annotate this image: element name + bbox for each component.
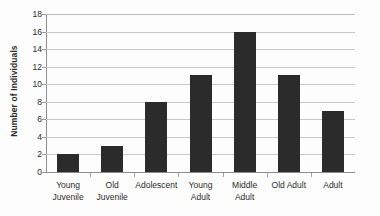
y-axis-tick-mark bbox=[42, 137, 46, 138]
plot-area bbox=[46, 14, 355, 172]
x-axis-tick-mark bbox=[267, 173, 268, 177]
bars-layer bbox=[46, 14, 355, 172]
x-axis-tick-mark bbox=[311, 173, 312, 177]
x-axis-tick-label-line: Adolescent bbox=[134, 180, 178, 192]
x-axis-tick-label-line: Young bbox=[178, 180, 222, 192]
x-axis-tick-label-line: Juvenile bbox=[90, 192, 134, 204]
x-axis-tick-label-line: Old Adult bbox=[267, 180, 311, 192]
y-axis-tick-label: 6 bbox=[20, 115, 42, 124]
x-axis-line bbox=[46, 172, 355, 173]
y-axis-tick-label: 18 bbox=[20, 10, 42, 19]
y-axis-tick-mark bbox=[42, 102, 46, 103]
bar bbox=[145, 102, 167, 172]
y-axis-tick-label: 14 bbox=[20, 45, 42, 54]
x-axis-tick-label-line: Adult bbox=[223, 192, 267, 204]
x-axis-tick-label: Adult bbox=[311, 180, 355, 192]
bar bbox=[101, 146, 123, 172]
x-axis-tick-label-line: Old bbox=[90, 180, 134, 192]
x-axis-tick-label-line: Young bbox=[46, 180, 90, 192]
bar-chart-figure: Number of Individuals 024681012141618 Yo… bbox=[0, 0, 380, 216]
y-axis-tick-label: 2 bbox=[20, 150, 42, 159]
y-axis-tick-label: 4 bbox=[20, 133, 42, 142]
bar bbox=[57, 154, 79, 172]
y-axis-tick-label: 0 bbox=[20, 168, 42, 177]
y-axis-tick-mark bbox=[42, 67, 46, 68]
x-axis-tick-mark bbox=[223, 173, 224, 177]
x-axis-tick-label: YoungAdult bbox=[178, 180, 222, 203]
x-axis-tick-label-line: Juvenile bbox=[46, 192, 90, 204]
x-axis-tick-mark bbox=[90, 173, 91, 177]
y-axis-tick-mark bbox=[42, 119, 46, 120]
bar bbox=[234, 32, 256, 172]
bar bbox=[322, 111, 344, 172]
y-axis-tick-mark bbox=[42, 32, 46, 33]
y-axis-tick-label: 16 bbox=[20, 27, 42, 36]
y-axis-tick-mark bbox=[42, 84, 46, 85]
y-axis-tick-mark bbox=[42, 49, 46, 50]
y-axis-tick-mark bbox=[42, 172, 46, 173]
x-axis-tick-label: MiddleAdult bbox=[223, 180, 267, 203]
bar bbox=[278, 75, 300, 172]
y-axis-tick-mark bbox=[42, 154, 46, 155]
y-axis-tick-labels: 024681012141618 bbox=[20, 14, 42, 172]
x-axis-tick-labels: YoungJuvenileOldJuvenileAdolescentYoungA… bbox=[46, 180, 355, 214]
y-axis-tick-mark bbox=[42, 14, 46, 15]
x-axis-tick-label: Adolescent bbox=[134, 180, 178, 192]
y-axis-tick-label: 8 bbox=[20, 98, 42, 107]
x-axis-tick-label: Old Adult bbox=[267, 180, 311, 192]
x-axis-tick-mark bbox=[178, 173, 179, 177]
x-axis-tick-label: YoungJuvenile bbox=[46, 180, 90, 203]
x-axis-tick-label: OldJuvenile bbox=[90, 180, 134, 203]
y-axis-tick-label: 12 bbox=[20, 62, 42, 71]
x-axis-tick-label-line: Adult bbox=[311, 180, 355, 192]
y-axis-tick-label: 10 bbox=[20, 80, 42, 89]
x-axis-tick-label-line: Middle bbox=[223, 180, 267, 192]
x-axis-tick-mark bbox=[134, 173, 135, 177]
bar bbox=[190, 75, 212, 172]
x-axis-tick-label-line: Adult bbox=[178, 192, 222, 204]
